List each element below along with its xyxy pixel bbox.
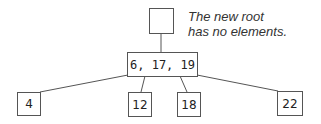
root-caption: The new root has no elements. bbox=[188, 9, 287, 39]
internal-node: 6, 17, 19 bbox=[127, 52, 198, 77]
leaf-node-12: 12 bbox=[128, 92, 152, 117]
root-node-empty bbox=[149, 8, 174, 34]
edge-internal-to-leaf-18 bbox=[180, 76, 187, 92]
caption-line-1: The new root bbox=[188, 9, 287, 24]
edge-internal-to-leaf-4 bbox=[40, 75, 128, 92]
edge-internal-to-leaf-22 bbox=[197, 75, 278, 91]
b-tree-diagram: The new root has no elements. 6, 17, 19 … bbox=[0, 0, 321, 124]
leaf-node-4: 4 bbox=[17, 92, 41, 116]
caption-line-2: has no elements. bbox=[188, 24, 287, 39]
leaf-node-22: 22 bbox=[277, 91, 303, 116]
leaf-node-18: 18 bbox=[177, 92, 201, 117]
edge-internal-to-leaf-12 bbox=[141, 76, 145, 92]
